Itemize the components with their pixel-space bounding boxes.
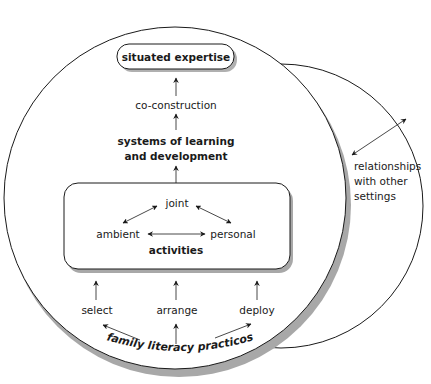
arrange-label: arrange bbox=[156, 304, 197, 316]
systems-label-line1: systems of learning bbox=[118, 135, 235, 147]
relationships-line2: with other bbox=[354, 175, 408, 187]
family-literacy-diagram: situated expertise co-construction syste… bbox=[0, 0, 431, 384]
activities-box bbox=[64, 183, 290, 269]
relationships-line3: settings bbox=[354, 190, 396, 202]
systems-label-line2: and development bbox=[124, 150, 227, 162]
deploy-label: deploy bbox=[239, 304, 274, 316]
select-label: select bbox=[81, 304, 112, 316]
personal-label: personal bbox=[210, 228, 255, 240]
co-construction-label: co-construction bbox=[135, 99, 216, 111]
ambient-label: ambient bbox=[96, 228, 139, 240]
activities-title: activities bbox=[149, 244, 203, 256]
situated-expertise-label: situated expertise bbox=[122, 51, 230, 63]
joint-label: joint bbox=[164, 197, 188, 209]
relationships-line1: relationships bbox=[354, 160, 421, 172]
